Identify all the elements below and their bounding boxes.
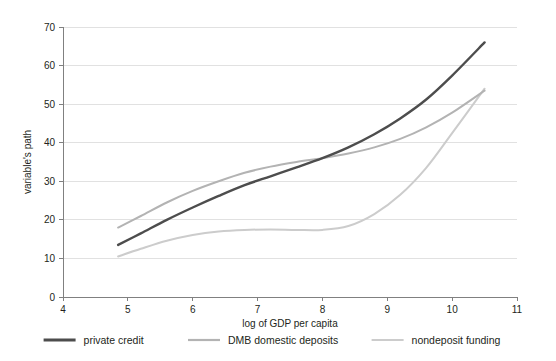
x-tick-label: 8 bbox=[320, 304, 326, 315]
y-tick-label: 60 bbox=[44, 60, 56, 71]
y-axis-ticks bbox=[59, 27, 63, 297]
y-tick-label: 50 bbox=[44, 99, 56, 110]
chart-legend: private creditDMB domestic depositsnonde… bbox=[44, 334, 501, 346]
x-tick-label: 7 bbox=[255, 304, 261, 315]
x-tick-label: 10 bbox=[447, 304, 459, 315]
y-axis-tick-labels: 010203040506070 bbox=[44, 22, 56, 303]
x-tick-label: 5 bbox=[125, 304, 131, 315]
series-line-dmb-domestic-deposits bbox=[118, 91, 484, 228]
y-tick-label: 30 bbox=[44, 176, 56, 187]
x-tick-label: 4 bbox=[60, 304, 66, 315]
series-line-private-credit bbox=[118, 42, 484, 245]
y-tick-label: 10 bbox=[44, 253, 56, 264]
chart-container: 010203040506070 4567891011 variable's pa… bbox=[0, 0, 556, 361]
y-tick-label: 20 bbox=[44, 214, 56, 225]
series-line-nondeposit-funding bbox=[118, 89, 484, 257]
gridlines bbox=[63, 27, 517, 258]
x-axis-tick-labels: 4567891011 bbox=[60, 304, 522, 315]
legend-label-private-credit: private credit bbox=[84, 334, 144, 346]
line-chart: 010203040506070 4567891011 variable's pa… bbox=[0, 0, 556, 361]
y-tick-label: 40 bbox=[44, 137, 56, 148]
legend-label-nondeposit-funding: nondeposit funding bbox=[412, 334, 501, 346]
x-tick-label: 6 bbox=[190, 304, 196, 315]
legend-label-dmb-domestic-deposits: DMB domestic deposits bbox=[228, 334, 338, 346]
y-tick-label: 0 bbox=[49, 292, 55, 303]
y-tick-label: 70 bbox=[44, 22, 56, 33]
series-lines bbox=[118, 42, 484, 256]
y-axis-title: variable's path bbox=[22, 130, 33, 194]
x-tick-label: 11 bbox=[512, 304, 523, 315]
x-axis-ticks bbox=[63, 297, 517, 301]
x-tick-label: 9 bbox=[385, 304, 391, 315]
x-axis-title: log of GDP per capita bbox=[242, 318, 338, 329]
